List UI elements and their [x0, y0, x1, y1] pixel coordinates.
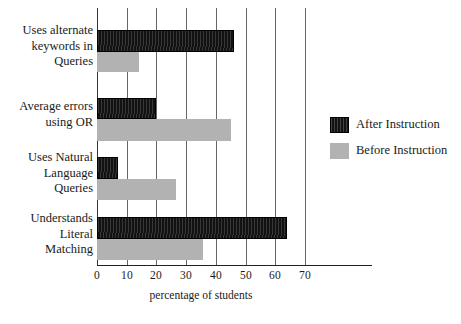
category-line: Average errors [0, 99, 93, 115]
bar-before-uses-alternate-keywords [97, 52, 139, 72]
xtick-label-70: 70 [285, 269, 325, 281]
bar-chart: 0 10 20 30 40 50 60 70 percentage of stu… [0, 0, 461, 324]
category-line: Uses Natural [0, 150, 93, 166]
x-axis-line [97, 265, 372, 266]
bar-before-average-errors-using-or [97, 119, 231, 141]
after-instruction-swatch [330, 117, 349, 133]
legend-item-after-instruction: After Instruction [330, 114, 458, 135]
category-label-understands-literal-matching: Understands Literal Matching [0, 211, 93, 258]
category-label-uses-natural-language-queries: Uses Natural Language Queries [0, 150, 93, 197]
bar-before-uses-natural-language-queries [97, 179, 176, 200]
bar-before-understands-literal-matching [97, 239, 203, 260]
category-label-average-errors-using-or: Average errors using OR [0, 99, 93, 130]
category-line: Literal [0, 227, 93, 243]
category-label-uses-alternate-keywords: Uses alternate keywords in Queries [0, 23, 93, 70]
category-line: using OR [0, 115, 93, 131]
before-instruction-swatch [330, 143, 349, 159]
bar-after-average-errors-using-or [97, 98, 156, 119]
bar-after-understands-literal-matching [97, 217, 287, 239]
category-line: Uses alternate [0, 23, 93, 39]
legend-item-before-instruction: Before Instruction [330, 140, 458, 161]
category-line: Language [0, 166, 93, 182]
x-axis-title: percentage of students [97, 289, 305, 301]
bar-after-uses-alternate-keywords [97, 30, 234, 52]
category-line: Queries [0, 181, 93, 197]
legend: After Instruction Before Instruction [330, 114, 458, 166]
category-line: Matching [0, 242, 93, 258]
legend-label-after-instruction: After Instruction [356, 117, 440, 132]
category-line: Understands [0, 211, 93, 227]
gridline-70 [305, 8, 306, 266]
category-line: keywords in [0, 39, 93, 55]
legend-label-before-instruction: Before Instruction [356, 143, 447, 158]
bar-after-uses-natural-language-queries [97, 157, 118, 179]
category-line: Queries [0, 54, 93, 70]
